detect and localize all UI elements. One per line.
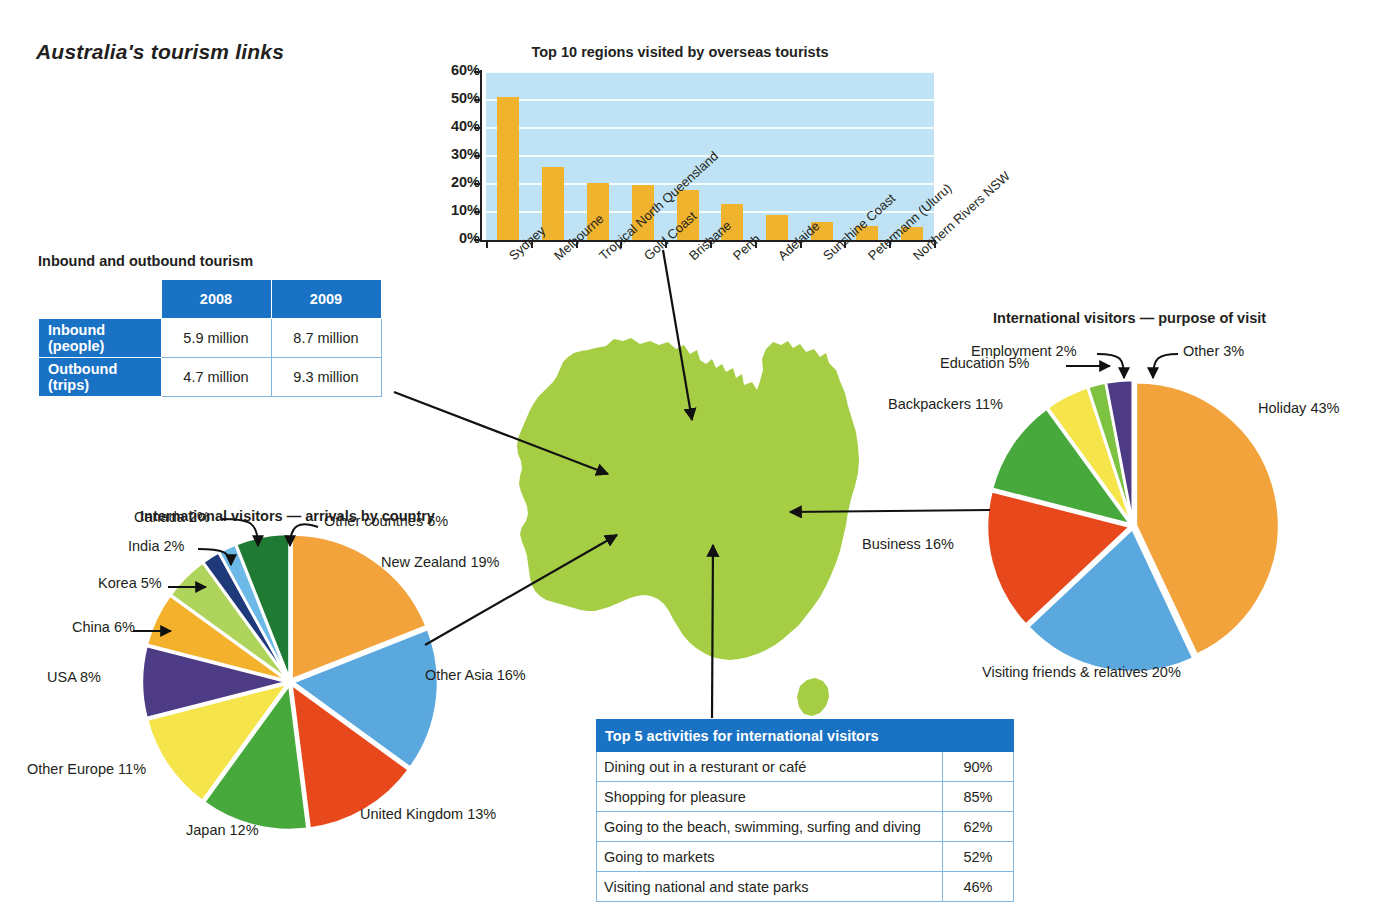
x-axis-tick <box>844 240 846 248</box>
activity-pct: 85% <box>943 782 1014 812</box>
purpose-pie-title: International visitors — purpose of visi… <box>993 310 1266 326</box>
table-row: Visiting national and state parks 46% <box>597 872 1014 902</box>
x-axis-tick <box>665 240 667 248</box>
x-axis-tick <box>889 240 891 248</box>
table-row: Inbound (people) 5.9 million 8.7 million <box>39 319 382 358</box>
x-axis-tick <box>486 240 488 248</box>
activities-table-block: Top 5 activities for international visit… <box>596 719 1014 902</box>
label-other: Other 3% <box>1183 343 1244 359</box>
y-axis-tick-label: 10% <box>430 202 480 218</box>
label-korea: Korea 5% <box>98 575 162 591</box>
activity-pct: 62% <box>943 812 1014 842</box>
label-new-zealand: New Zealand 19% <box>381 554 500 570</box>
outbound-2009-value: 9.3 million <box>271 358 381 397</box>
label-china: China 6% <box>72 619 135 635</box>
y-axis-tick-label: 0% <box>430 230 480 246</box>
table-row: Outbound (trips) 4.7 million 9.3 million <box>39 358 382 397</box>
bar <box>497 97 519 240</box>
y-axis-tick-label: 40% <box>430 118 480 134</box>
activity-pct: 52% <box>943 842 1014 872</box>
corner-cell <box>39 280 162 319</box>
connector-activities-table <box>712 545 713 718</box>
australia-map <box>517 338 859 716</box>
label-business: Business 16% <box>862 536 954 552</box>
x-axis-tick <box>576 240 578 248</box>
activity-pct: 90% <box>943 752 1014 782</box>
label-india: India 2% <box>128 538 184 554</box>
label-other-europe: Other Europe 11% <box>27 761 146 777</box>
activities-table-title: Top 5 activities for international visit… <box>597 720 1014 752</box>
outbound-2008-value: 4.7 million <box>161 358 271 397</box>
inbound-2009-value: 8.7 million <box>271 319 381 358</box>
label-employment: Employment 2% <box>971 343 1077 359</box>
purpose-of-visit-pie: Holiday 43%Visiting friends & relatives … <box>985 378 1285 678</box>
label-united-kingdom: United Kingdom 13% <box>360 806 496 822</box>
x-axis-tick <box>531 240 533 248</box>
activity-label: Visiting national and state parks <box>597 872 943 902</box>
label-other-asia: Other Asia 16% <box>425 667 526 683</box>
arrivals-by-country-pie: New Zealand 19%Other Asia 16%United King… <box>140 530 450 840</box>
table-row: Going to markets 52% <box>597 842 1014 872</box>
y-axis-tick-label: 20% <box>430 174 480 190</box>
activity-label: Going to markets <box>597 842 943 872</box>
bar <box>766 215 788 240</box>
row-label-inbound: Inbound (people) <box>39 319 162 358</box>
row-label-outbound: Outbound (trips) <box>39 358 162 397</box>
table-row: Shopping for pleasure 85% <box>597 782 1014 812</box>
activity-label: Going to the beach, swimming, surfing an… <box>597 812 943 842</box>
x-axis-tick <box>710 240 712 248</box>
label-japan: Japan 12% <box>186 822 259 838</box>
label-backpackers: Backpackers 11% <box>888 396 1003 412</box>
label-canada: Canada 2% <box>134 509 210 525</box>
y-axis-tick-label: 60% <box>430 62 480 78</box>
connector-inbound-table <box>394 392 608 474</box>
table-row: Dining out in a resturant or café 90% <box>597 752 1014 782</box>
connector-arrivals-pie <box>425 535 617 645</box>
x-axis-tick <box>800 240 802 248</box>
activities-table: Top 5 activities for international visit… <box>596 719 1014 902</box>
inbound-outbound-table: 2008 2009 Inbound (people) 5.9 million 8… <box>38 279 382 397</box>
activity-label: Shopping for pleasure <box>597 782 943 812</box>
x-axis-tick <box>620 240 622 248</box>
table-header-row: Top 5 activities for international visit… <box>597 720 1014 752</box>
leader-other-purpose <box>1153 354 1178 378</box>
label-usa: USA 8% <box>47 669 101 685</box>
column-header-2008: 2008 <box>161 280 271 319</box>
grid-line <box>486 99 934 101</box>
table-row: Going to the beach, swimming, surfing an… <box>597 812 1014 842</box>
x-axis-tick <box>934 240 936 248</box>
bar-chart-y-axis: 0%10%20%30%40%50%60% <box>424 44 480 274</box>
label-vfr: Visiting friends & relatives 20% <box>982 664 1181 680</box>
grid-line <box>486 127 934 129</box>
inbound-outbound-title: Inbound and outbound tourism <box>38 253 382 269</box>
bar <box>542 167 564 240</box>
x-axis-tick <box>755 240 757 248</box>
label-holiday: Holiday 43% <box>1258 400 1339 416</box>
activity-label: Dining out in a resturant or café <box>597 752 943 782</box>
connector-purpose-pie <box>790 510 990 512</box>
leader-employment <box>1097 354 1124 378</box>
inbound-outbound-table-block: Inbound and outbound tourism 2008 2009 I… <box>38 253 382 397</box>
bar-chart: Top 10 regions visited by overseas touri… <box>424 44 936 344</box>
bar-chart-title: Top 10 regions visited by overseas touri… <box>424 44 936 60</box>
grid-line <box>486 71 934 73</box>
table-header-row: 2008 2009 <box>39 280 382 319</box>
label-other-countries: Other countries 6% <box>324 513 448 529</box>
activity-pct: 46% <box>943 872 1014 902</box>
y-axis-tick-label: 30% <box>430 146 480 162</box>
page-title: Australia's tourism links <box>36 40 284 64</box>
column-header-2009: 2009 <box>271 280 381 319</box>
y-axis-tick-label: 50% <box>430 90 480 106</box>
y-axis-line <box>480 70 488 242</box>
inbound-2008-value: 5.9 million <box>161 319 271 358</box>
